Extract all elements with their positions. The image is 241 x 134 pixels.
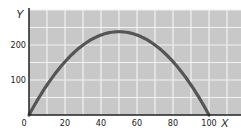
y-tick-labels: 100200 bbox=[11, 40, 26, 85]
x-tick-label: 80 bbox=[168, 118, 178, 128]
x-tick-label: 100 bbox=[201, 118, 216, 128]
y-tick-label: 100 bbox=[11, 75, 26, 85]
x-tick-label: 40 bbox=[96, 118, 106, 128]
x-tick-label: 0 bbox=[21, 118, 26, 128]
y-axis-label: Y bbox=[16, 8, 24, 20]
x-axis-label: X bbox=[220, 117, 229, 129]
x-tick-label: 20 bbox=[60, 118, 70, 128]
y-tick-label: 200 bbox=[11, 40, 26, 50]
x-tick-labels: 020406080100 bbox=[21, 118, 216, 128]
x-tick-label: 60 bbox=[132, 118, 142, 128]
chart-figure: 020406080100 100200 X Y bbox=[0, 0, 241, 134]
